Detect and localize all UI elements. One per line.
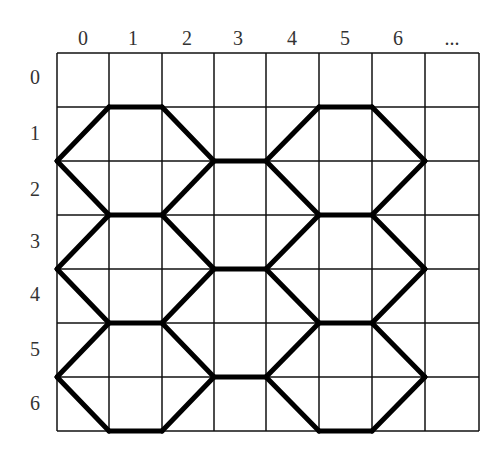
column-label: ... <box>445 27 460 49</box>
column-label: 0 <box>78 27 88 49</box>
column-label: 5 <box>340 27 350 49</box>
path-segment <box>372 215 425 269</box>
path-segment <box>162 215 214 269</box>
row-label: 5 <box>30 338 40 360</box>
path-segment <box>162 323 214 377</box>
path-segment <box>57 107 109 161</box>
path-segment <box>162 107 214 161</box>
row-label: 4 <box>30 283 40 305</box>
column-label: 3 <box>233 27 243 49</box>
path-segment <box>266 107 319 161</box>
path-segment <box>162 269 214 323</box>
row-label: 0 <box>30 66 40 88</box>
path-segment <box>162 161 214 215</box>
row-label: 6 <box>30 392 40 414</box>
path-segment <box>372 377 425 431</box>
path-segment <box>372 107 425 161</box>
column-label: 6 <box>393 27 403 49</box>
path-segment <box>57 215 109 269</box>
grid-diagram: 0123456... 0123456 <box>0 0 502 449</box>
path-segment <box>266 269 319 323</box>
path-segment <box>266 161 319 215</box>
path-segment <box>372 161 425 215</box>
path-segment <box>372 269 425 323</box>
path-segment <box>57 323 109 377</box>
path-segment <box>57 377 109 431</box>
path-segment <box>57 269 109 323</box>
path-segment <box>57 161 109 215</box>
row-label: 2 <box>30 178 40 200</box>
path-segment <box>162 377 214 431</box>
path-segment <box>266 323 319 377</box>
row-label: 1 <box>30 122 40 144</box>
row-label: 3 <box>30 230 40 252</box>
hexagon-grid-figure: 0123456... 0123456 <box>0 0 502 449</box>
column-label: 1 <box>128 27 138 49</box>
row-labels: 0123456 <box>30 66 40 414</box>
column-label: 4 <box>287 27 297 49</box>
path-segment <box>266 377 319 431</box>
path-segment <box>372 323 425 377</box>
path-segment <box>266 215 319 269</box>
column-label: 2 <box>182 27 192 49</box>
column-labels: 0123456... <box>78 27 460 49</box>
